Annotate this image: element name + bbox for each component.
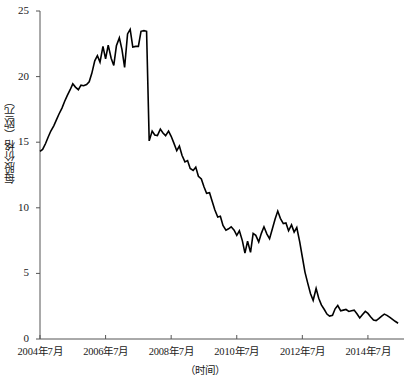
- x-axis-tick-label: 2006年7月: [73, 346, 139, 357]
- x-axis-title: （时间）: [0, 362, 410, 377]
- y-axis-tick-label: 25: [9, 5, 29, 16]
- x-axis-tick-label: 2012年7月: [269, 346, 335, 357]
- y-axis-tick-label: 20: [9, 71, 29, 82]
- x-axis-ticks: [40, 335, 368, 339]
- chart-series-group: [40, 29, 398, 323]
- x-axis-tick-label: 2008年7月: [138, 346, 204, 357]
- y-axis-tick-label: 10: [9, 202, 29, 213]
- y-axis-title: 每股价格（欧元）: [4, 96, 20, 184]
- y-axis-ticks: [36, 11, 40, 339]
- x-axis-tick-label: 2010年7月: [204, 346, 270, 357]
- stock-price-line-chart: 0510152025 2004年7月2006年7月2008年7月2010年7月2…: [0, 0, 410, 382]
- chart-plot-area: [0, 0, 410, 382]
- x-axis-tick-label: 2004年7月: [7, 346, 73, 357]
- price-line-series: [40, 29, 398, 323]
- y-axis-tick-label: 5: [9, 267, 29, 278]
- chart-axes: [36, 11, 404, 339]
- x-axis-tick-label: 2014年7月: [335, 346, 401, 357]
- y-axis-tick-label: 0: [9, 333, 29, 344]
